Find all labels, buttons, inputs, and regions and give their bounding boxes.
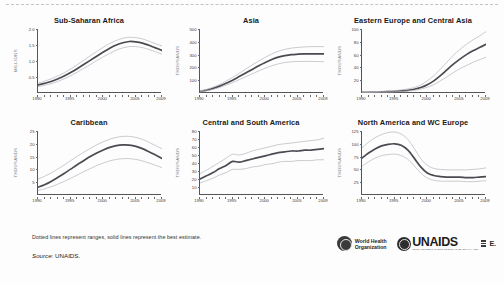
x-tick-mark <box>446 95 447 97</box>
y-tick-mark <box>36 131 38 132</box>
unaids-bars-icon <box>481 240 486 247</box>
x-tick-mark <box>96 197 97 199</box>
chart-title: Eastern Europe and Central Asia <box>332 16 494 27</box>
x-tick-mark <box>413 197 414 199</box>
x-tick-mark <box>478 197 479 199</box>
y-tick-label: 20 <box>192 177 197 182</box>
chart-title: Sub-Saharan Africa <box>8 16 170 27</box>
top-divider <box>6 4 498 6</box>
y-axis-label-text: THOUSANDS <box>13 147 18 177</box>
who-emblem-icon <box>337 236 352 251</box>
x-tick-mark <box>258 197 259 199</box>
y-tick-mark <box>360 169 362 170</box>
y-tick-label: 500 <box>190 27 197 32</box>
plot-canvas <box>361 29 485 93</box>
x-tick-mark <box>251 95 252 97</box>
y-tick-mark <box>198 67 200 68</box>
series-best-estimate <box>362 144 486 178</box>
y-tick-mark <box>198 163 200 164</box>
y-tick-label: 20 <box>30 141 35 146</box>
chart-panel: Eastern Europe and Central AsiaTHOUSANDS… <box>332 16 494 118</box>
x-tick-label: 1990 <box>194 198 203 203</box>
chart-panel: AsiaTHOUSANDS100200300400500199019952000… <box>170 16 332 118</box>
x-tick-mark <box>225 95 226 97</box>
series-range-bound <box>362 57 486 92</box>
x-tick-label: 2005 <box>454 198 463 203</box>
series-range-bound <box>38 46 162 86</box>
y-tick-mark <box>198 80 200 81</box>
x-tick-label: 2009 <box>156 96 165 101</box>
x-tick-label: 2005 <box>292 96 301 101</box>
y-tick-mark <box>198 55 200 56</box>
y-tick-label: 10 <box>30 167 35 172</box>
x-tick-mark <box>122 197 123 199</box>
x-tick-mark <box>381 197 382 199</box>
x-tick-label: 2005 <box>130 96 139 101</box>
x-tick-label: 2009 <box>156 198 165 203</box>
x-tick-mark <box>109 95 110 97</box>
y-tick-mark <box>360 157 362 158</box>
y-tick-label: 5 <box>32 180 34 185</box>
x-tick-mark <box>374 95 375 97</box>
who-logo-line1: World Health <box>355 238 387 244</box>
x-tick-mark <box>368 197 369 199</box>
x-tick-mark <box>115 197 116 199</box>
chart-panel: Sub-Saharan AfricaMILLIONS0.51.01.52.019… <box>8 16 170 118</box>
plot-area: THOUSANDS1020304050607080199019952000200… <box>170 129 332 217</box>
chart-title: Asia <box>170 16 332 27</box>
x-tick-label: 1995 <box>227 96 236 101</box>
series-layer <box>362 29 486 93</box>
x-tick-label: 2005 <box>292 198 301 203</box>
series-range-bound <box>38 136 162 179</box>
plot-area: THOUSANDS51015202519901995200020052009 <box>8 129 170 217</box>
y-tick-label: 2.0 <box>29 27 35 32</box>
y-axis-label-text: THOUSANDS <box>175 147 180 177</box>
x-tick-mark <box>225 197 226 199</box>
x-tick-mark <box>284 95 285 97</box>
figure-note: Dotted lines represent ranges, solid lin… <box>32 234 201 240</box>
x-tick-label: 2009 <box>480 96 489 101</box>
chart-panel: CaribbeanTHOUSANDS5101520251990199520002… <box>8 118 170 220</box>
series-range-bound <box>200 160 324 183</box>
x-tick-mark <box>63 95 64 97</box>
y-axis-ticks: 510152025 <box>19 129 36 195</box>
x-tick-mark <box>478 95 479 97</box>
series-range-bound <box>362 32 486 92</box>
plot-canvas <box>199 29 323 93</box>
x-tick-label: 2000 <box>422 96 431 101</box>
x-tick-mark <box>206 95 207 97</box>
x-tick-mark <box>50 197 51 199</box>
unaids-emblem-icon <box>397 237 411 251</box>
x-tick-label: 2000 <box>98 96 107 101</box>
x-tick-label: 1990 <box>194 96 203 101</box>
x-tick-label: 2000 <box>422 198 431 203</box>
unaids-subtitle: JOINT UNITED NATIONS PROGRAMME ON HIV/AI… <box>412 248 478 251</box>
x-tick-mark <box>206 197 207 199</box>
y-axis-ticks: 1020304050607080 <box>181 129 198 195</box>
y-tick-mark <box>360 80 362 81</box>
y-tick-mark <box>36 77 38 78</box>
x-tick-mark <box>83 95 84 97</box>
x-tick-mark <box>400 197 401 199</box>
x-tick-mark <box>303 95 304 97</box>
x-axis-ticks: 19901995200020052009 <box>199 197 323 207</box>
x-tick-mark <box>96 95 97 97</box>
x-tick-label: 1990 <box>32 198 41 203</box>
x-tick-mark <box>122 95 123 97</box>
x-tick-mark <box>420 95 421 97</box>
x-tick-label: 1995 <box>65 96 74 101</box>
y-tick-label: 400 <box>190 39 197 44</box>
y-tick-mark <box>198 179 200 180</box>
x-tick-mark <box>148 197 149 199</box>
x-tick-mark <box>154 197 155 199</box>
y-axis-label-text: THOUSANDS <box>337 45 342 75</box>
y-tick-mark <box>198 29 200 30</box>
x-tick-mark <box>89 197 90 199</box>
x-tick-mark <box>420 197 421 199</box>
y-tick-label: 25 <box>354 180 359 185</box>
x-tick-mark <box>407 197 408 199</box>
y-axis-label-text: THOUSANDS <box>337 147 342 177</box>
x-tick-label: 2005 <box>454 96 463 101</box>
x-tick-mark <box>271 197 272 199</box>
x-tick-label: 2009 <box>318 96 327 101</box>
